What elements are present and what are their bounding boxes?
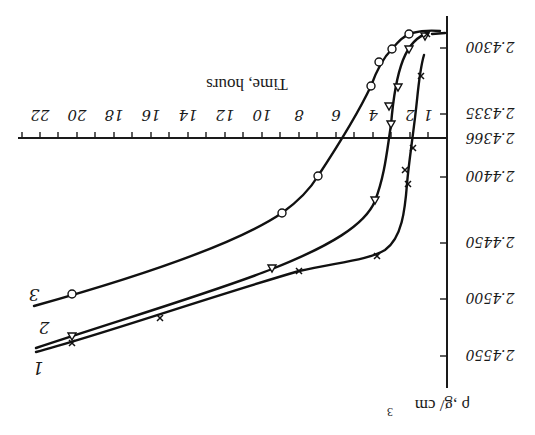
y-tick-label: 2.4450 xyxy=(465,234,515,250)
x-tick-label: 4 xyxy=(368,106,379,124)
x-tick-label: 1 xyxy=(423,106,433,124)
y-tick-label: 2.4400 xyxy=(465,168,515,184)
curve-label-3: 3 xyxy=(29,285,40,305)
x-tick-label: 20 xyxy=(67,106,88,124)
x-tick-label: 16 xyxy=(141,106,161,124)
y-tick-label: 2.4550 xyxy=(465,347,515,363)
x-tick-label: 18 xyxy=(104,106,123,124)
y-tick-label: 2.4500 xyxy=(465,290,515,306)
x-tick-label: 8 xyxy=(294,106,304,124)
y-axis-title-text: ρ ,g/ cm xyxy=(415,396,470,415)
density-vs-time-chart: 1 2 4 6 8 10 12 14 16 18 20 22 Time, hou… xyxy=(0,0,535,435)
curve-1 xyxy=(36,55,424,352)
curve-1-top xyxy=(432,33,445,34)
curve-label-1: 1 xyxy=(33,358,44,378)
y-axis-title: ρ ,g/ cm 3 xyxy=(387,396,470,419)
curve-3 xyxy=(34,31,440,306)
curve-label-2: 2 xyxy=(39,318,51,338)
y-tick-label: 2.4335 xyxy=(465,105,515,121)
x-tick-label: 6 xyxy=(331,106,341,124)
y-tick-label: 2.4366 xyxy=(465,130,515,146)
x-tick-labels: 1 2 4 6 8 10 12 14 16 18 20 22 xyxy=(30,106,432,124)
y-tick-label: 2.4300 xyxy=(465,39,515,55)
y-tick-labels: 2.4300 2.4335 2.4366 2.4400 2.4450 2.450… xyxy=(465,39,515,363)
x-tick-label: 10 xyxy=(252,106,272,124)
x-tick-label: 14 xyxy=(178,106,197,124)
x-axis-title: Time, hours xyxy=(206,75,288,94)
y-axis-title-superscript: 3 xyxy=(387,405,393,419)
x-tick-label: 22 xyxy=(30,106,50,124)
x-tick-label: 12 xyxy=(215,106,234,124)
y-axis-ticks xyxy=(440,48,447,356)
